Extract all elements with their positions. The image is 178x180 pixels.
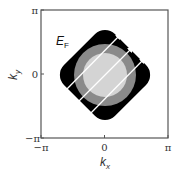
y-axis-label: ky bbox=[6, 69, 22, 80]
fermi-energy-label: EF bbox=[56, 34, 69, 50]
y-tick-label-pi: π bbox=[31, 5, 38, 16]
x-tick-label-pi: π bbox=[165, 142, 172, 153]
y-axis-label-group: ky bbox=[6, 69, 22, 80]
x-tick-label-neg-pi: −π bbox=[34, 142, 49, 153]
fermi-surface-diagram: EF π 0 −π −π 0 π kx ky bbox=[0, 0, 178, 180]
x-axis-label: kx bbox=[100, 155, 111, 171]
y-tick-label-zero: 0 bbox=[32, 69, 38, 80]
x-tick-label-zero: 0 bbox=[101, 142, 107, 153]
